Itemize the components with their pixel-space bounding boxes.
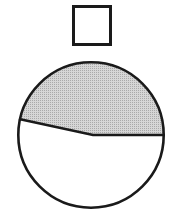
unit-square-outline (74, 7, 111, 45)
fraction-diagram: Shaded circle fraction diagram with unit… (0, 0, 176, 218)
unit-square (74, 7, 111, 45)
